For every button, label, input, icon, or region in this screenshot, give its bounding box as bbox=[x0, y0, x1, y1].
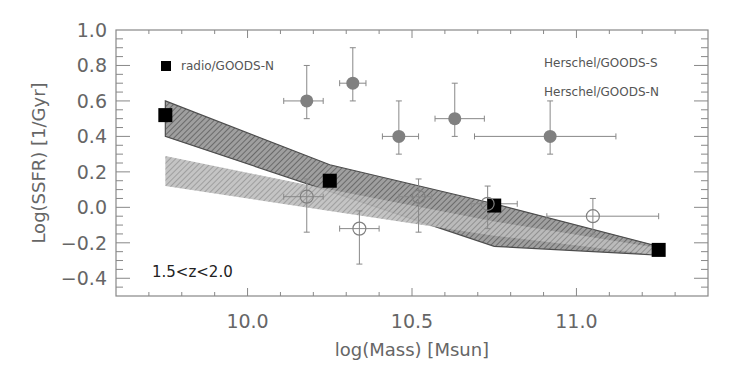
y-tick-label: −0.2 bbox=[61, 232, 107, 254]
y-tick-label: 0.6 bbox=[77, 90, 107, 112]
y-axis-label: Log(SSFR) [1/Gyr] bbox=[28, 82, 49, 243]
herschel-s-point-circle bbox=[392, 130, 405, 143]
radio-point-square bbox=[158, 108, 172, 122]
herschel-s-point-circle bbox=[544, 130, 557, 143]
x-tick-label: 11.0 bbox=[555, 310, 597, 332]
y-tick-label: 0.4 bbox=[77, 125, 107, 147]
y-tick-label: 0.2 bbox=[77, 161, 107, 183]
legend-label-herschel-s: Herschel/GOODS-S bbox=[544, 56, 658, 70]
herschel-s-point-circle bbox=[346, 77, 359, 90]
radio-point-square bbox=[652, 243, 666, 257]
x-tick-label: 10.0 bbox=[226, 310, 268, 332]
y-tick-label: 0.0 bbox=[77, 196, 107, 218]
y-tick-label: 0.8 bbox=[77, 54, 107, 76]
legend-label-radio: radio/GOODS-N bbox=[181, 59, 274, 73]
y-tick-label: −0.4 bbox=[61, 267, 107, 289]
legend-label-herschel-n: Herschel/GOODS-N bbox=[544, 85, 659, 99]
redshift-annotation: 1.5<z<2.0 bbox=[152, 263, 233, 281]
bands-layer bbox=[165, 101, 658, 255]
ssfr-mass-chart: 10.010.511.0−0.4−0.20.00.20.40.60.81.0 l… bbox=[0, 0, 729, 379]
x-tick-label: 10.5 bbox=[391, 310, 433, 332]
herschel-s-point-circle bbox=[300, 94, 313, 107]
y-tick-label: 1.0 bbox=[77, 19, 107, 41]
legend: radio/GOODS-N Herschel/GOODS-S Herschel/… bbox=[161, 56, 659, 99]
legend-marker-radio bbox=[161, 61, 171, 71]
radio-point-square bbox=[323, 174, 337, 188]
x-axis-label: log(Mass) [Msun] bbox=[335, 339, 489, 360]
herschel-s-point-circle bbox=[448, 112, 461, 125]
